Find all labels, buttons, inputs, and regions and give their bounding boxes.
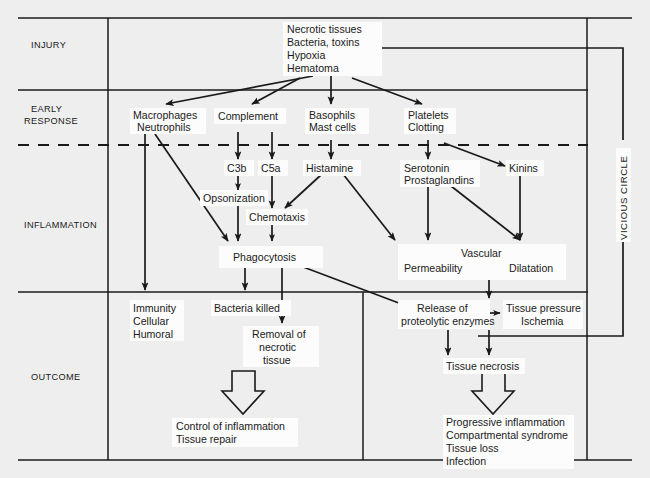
node-tissue-necrosis[interactable]: Tissue necrosis bbox=[443, 358, 525, 374]
node-histamine-label: Histamine bbox=[306, 162, 353, 174]
node-c3b[interactable]: C3b bbox=[224, 160, 254, 176]
node-serotonin[interactable]: Serotonin Prostaglandins bbox=[400, 160, 480, 187]
label-vicious-circle: VICIOUS CIRCLE bbox=[616, 148, 631, 242]
node-good-outcome-line-2: Tissue repair bbox=[176, 433, 237, 445]
node-macrophages-line-2: Neutrophils bbox=[137, 121, 191, 133]
node-immunity-line-1: Immunity bbox=[133, 302, 177, 314]
node-immunity[interactable]: Immunity Cellular Humoral bbox=[130, 300, 184, 341]
node-trigger-line-1: Necrotic tissues bbox=[287, 23, 362, 35]
node-opsonization-label: Opsonization bbox=[203, 192, 265, 204]
node-phagocytosis[interactable]: Phagocytosis bbox=[219, 246, 323, 268]
arrow-macrophages-to-phagocytosis bbox=[155, 134, 228, 241]
node-release-proteolytic-enzymes[interactable]: Release of proteolytic enzymes bbox=[398, 300, 495, 329]
node-removal-line-1: Removal of bbox=[252, 328, 306, 340]
arrow-histamine-to-chemotaxis bbox=[285, 174, 322, 208]
node-bad-outcome-line-3: Tissue loss bbox=[446, 442, 499, 454]
node-basophils[interactable]: Basophils Mast cells bbox=[305, 108, 369, 134]
node-tissue-necrosis-label: Tissue necrosis bbox=[446, 360, 519, 372]
block-arrow-good-outcome bbox=[222, 371, 264, 414]
stage-divider-lines bbox=[18, 18, 632, 460]
node-removal-line-3: tissue bbox=[263, 354, 291, 366]
stage-label-outcome: OUTCOME bbox=[31, 372, 80, 382]
node-vascular-label: Vascular bbox=[461, 247, 502, 259]
node-removal-line-2: necrotic bbox=[259, 341, 297, 353]
node-c5a[interactable]: C5a bbox=[258, 160, 288, 176]
node-permeability-label: Permeability bbox=[404, 262, 463, 274]
arrow-trigger-to-platelets bbox=[352, 78, 422, 104]
stage-labels: INJURY EARLY RESPONSE INFLAMMATION OUTCO… bbox=[24, 40, 97, 382]
node-trigger-line-4: Hematoma bbox=[287, 62, 339, 74]
node-macrophages[interactable]: Macrophages Neutrophils bbox=[130, 108, 206, 134]
stage-label-early-response-1: EARLY bbox=[31, 104, 62, 114]
inflammation-flow-diagram: INJURY EARLY RESPONSE INFLAMMATION OUTCO… bbox=[0, 0, 650, 478]
node-tissue-pressure-ischemia[interactable]: Tissue pressure Ischemia bbox=[503, 300, 583, 329]
node-chemotaxis[interactable]: Chemotaxis bbox=[246, 209, 308, 225]
node-vascular-permeability-dilatation[interactable]: Vascular Permeability Dilatation bbox=[398, 244, 566, 280]
vicious-circle-text: VICIOUS CIRCLE bbox=[618, 156, 629, 240]
node-phagocytosis-label: Phagocytosis bbox=[233, 251, 296, 263]
node-trigger[interactable]: Necrotic tissues Bacteria, toxins Hypoxi… bbox=[283, 22, 382, 76]
node-bad-outcome[interactable]: Progressive inflammation Compartmental s… bbox=[443, 415, 574, 469]
node-kinins-label: Kinins bbox=[509, 162, 538, 174]
stage-label-early-response-2: RESPONSE bbox=[24, 116, 78, 126]
node-good-outcome[interactable]: Control of inflammation Tissue repair bbox=[172, 418, 298, 447]
node-complement-label: Complement bbox=[218, 110, 278, 122]
block-arrow-bad-outcome bbox=[472, 371, 514, 414]
diagram-canvas: INJURY EARLY RESPONSE INFLAMMATION OUTCO… bbox=[0, 0, 650, 478]
arrow-phagocytosis-to-release-enzymes bbox=[290, 262, 412, 308]
node-tissue-pressure-line-2: Ischemia bbox=[521, 315, 563, 327]
node-removal-necrotic-tissue[interactable]: Removal of necrotic tissue bbox=[243, 326, 319, 367]
node-serotonin-line-2: Prostaglandins bbox=[404, 174, 474, 186]
node-histamine[interactable]: Histamine bbox=[303, 160, 361, 176]
node-bacteria-killed-label: Bacteria killed bbox=[214, 302, 280, 314]
node-basophils-line-2: Mast cells bbox=[309, 121, 356, 133]
stage-label-injury: INJURY bbox=[31, 40, 66, 50]
node-basophils-line-1: Basophils bbox=[309, 109, 355, 121]
node-dilatation-label: Dilatation bbox=[509, 262, 553, 274]
node-good-outcome-line-1: Control of inflammation bbox=[176, 420, 285, 432]
node-release-enzymes-line-1: Release of bbox=[417, 302, 468, 314]
arrow-serotonin-to-dilatation bbox=[451, 186, 520, 240]
block-arrows bbox=[222, 371, 514, 414]
node-c5a-label: C5a bbox=[261, 162, 281, 174]
arrow-trigger-to-complement bbox=[252, 78, 300, 104]
node-complement[interactable]: Complement bbox=[214, 108, 286, 124]
node-chemotaxis-label: Chemotaxis bbox=[249, 211, 305, 223]
node-bacteria-killed[interactable]: Bacteria killed bbox=[211, 300, 291, 316]
node-tissue-pressure-line-1: Tissue pressure bbox=[506, 302, 581, 314]
node-c3b-label: C3b bbox=[227, 162, 247, 174]
node-immunity-line-2: Cellular bbox=[133, 315, 169, 327]
stage-label-inflammation: INFLAMMATION bbox=[24, 220, 97, 230]
node-platelets[interactable]: Platelets Clotting bbox=[404, 108, 456, 134]
arrow-histamine-to-vascular bbox=[343, 174, 395, 240]
node-opsonization[interactable]: Opsonization bbox=[200, 190, 268, 206]
node-trigger-line-2: Bacteria, toxins bbox=[287, 36, 359, 48]
node-macrophages-line-1: Macrophages bbox=[133, 109, 197, 121]
node-serotonin-line-1: Serotonin bbox=[404, 162, 449, 174]
node-platelets-line-1: Platelets bbox=[408, 109, 449, 121]
node-bad-outcome-line-2: Compartmental syndrome bbox=[446, 429, 568, 441]
node-immunity-line-3: Humoral bbox=[133, 328, 173, 340]
node-kinins[interactable]: Kinins bbox=[506, 160, 544, 176]
node-trigger-line-3: Hypoxia bbox=[287, 49, 325, 61]
node-bad-outcome-line-4: Infection bbox=[446, 455, 486, 467]
node-platelets-line-2: Clotting bbox=[408, 121, 444, 133]
node-bad-outcome-line-1: Progressive inflammation bbox=[446, 416, 565, 428]
node-release-enzymes-line-2: proteolytic enzymes bbox=[401, 315, 495, 327]
